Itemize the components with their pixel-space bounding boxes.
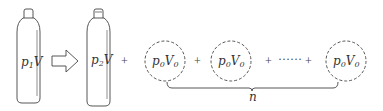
transition-arrow-icon xyxy=(52,50,78,72)
brace-count-label: n xyxy=(249,90,257,104)
gas-cylinder-diagram: p1V p2V + + + ······ + p0V0 p0V0 p0V0 n xyxy=(0,0,383,111)
cylinder-final-label: p2V xyxy=(91,53,114,68)
gas-bubble: p0V0 xyxy=(326,41,366,81)
ellipsis: ······ xyxy=(278,52,302,66)
gas-bubble: p0V0 xyxy=(145,41,185,81)
svg-text:p0V0: p0V0 xyxy=(333,54,360,69)
plus-sign: + xyxy=(194,54,201,68)
plus-sign: + xyxy=(305,54,312,68)
plus-sign: + xyxy=(265,54,272,68)
gas-bubble: p0V0 xyxy=(211,41,251,81)
svg-text:p0V0: p0V0 xyxy=(152,54,179,69)
plus-sign: + xyxy=(121,54,128,68)
svg-text:p0V0: p0V0 xyxy=(218,54,245,69)
cylinder-initial-label: p1V xyxy=(21,55,44,70)
